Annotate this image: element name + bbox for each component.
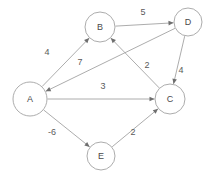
node-label-d: D xyxy=(185,17,192,27)
graph-edge-a-c xyxy=(48,97,155,102)
edge-weight-e-c: 2 xyxy=(130,127,135,137)
node-label-c: C xyxy=(167,94,174,104)
arrowhead-icon xyxy=(150,97,155,102)
graph-node-d[interactable]: D xyxy=(174,8,202,36)
edge-line xyxy=(174,36,185,84)
edge-weight-d-a: 7 xyxy=(77,57,82,67)
node-label-a: A xyxy=(27,94,33,104)
graph-diagram-canvas: ABCDE 457423-62 xyxy=(0,0,216,181)
edge-weight-b-d: 5 xyxy=(140,7,145,17)
node-label-b: B xyxy=(97,22,103,32)
graph-node-a[interactable]: A xyxy=(13,82,47,116)
edge-weight-d-c: 4 xyxy=(178,65,183,75)
arrowhead-icon xyxy=(172,79,176,84)
graph-edge-c-b xyxy=(111,38,159,88)
edge-weight-c-b: 2 xyxy=(144,60,149,70)
graph-edge-b-d xyxy=(115,21,173,26)
arrowhead-icon xyxy=(168,21,173,26)
edges-layer xyxy=(42,21,185,147)
edge-weight-a-c: 3 xyxy=(100,81,105,91)
edge-line xyxy=(111,38,159,88)
graph-svg: ABCDE 457423-62 xyxy=(0,0,216,181)
edge-weight-a-e: -6 xyxy=(48,127,56,137)
graph-edge-d-c xyxy=(172,36,184,84)
graph-node-e[interactable]: E xyxy=(87,142,115,170)
graph-node-c[interactable]: C xyxy=(155,84,185,114)
edge-line xyxy=(115,23,173,26)
node-label-e: E xyxy=(98,151,104,161)
nodes-layer: ABCDE xyxy=(13,8,202,170)
edge-weight-a-b: 4 xyxy=(44,47,49,57)
graph-node-b[interactable]: B xyxy=(85,12,115,42)
